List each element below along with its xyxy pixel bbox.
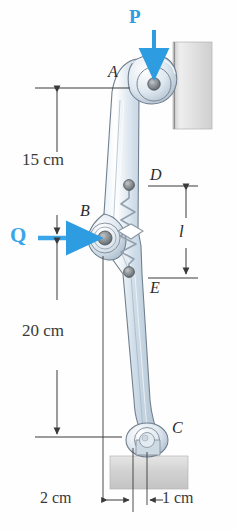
- wall-support: [173, 42, 212, 129]
- label-point-d: D: [150, 166, 162, 184]
- pin-e: [124, 267, 135, 278]
- force-q-label: Q: [10, 223, 26, 248]
- label-point-a: A: [108, 63, 118, 81]
- label-point-c: C: [172, 419, 183, 437]
- dimension-1cm-text: 1 cm: [162, 489, 194, 507]
- pin-a: [148, 78, 160, 90]
- dimension-l: [148, 186, 198, 278]
- label-spring-length: l: [179, 222, 184, 242]
- pin-b: [98, 231, 112, 245]
- force-p-label: P: [129, 6, 141, 28]
- dimension-15cm-text: 15 cm: [22, 150, 64, 170]
- label-point-e: E: [150, 279, 160, 297]
- base-support: [110, 456, 188, 489]
- pin-d: [124, 180, 135, 191]
- dimension-2cm-text: 2 cm: [40, 489, 72, 507]
- dimension-20cm-text: 20 cm: [22, 321, 64, 341]
- mechanism-diagram: [0, 0, 236, 530]
- mechanism-link: [88, 55, 177, 457]
- figure-canvas: P Q A B C D E l 15 cm 20 cm 2 cm 1 cm: [0, 0, 236, 530]
- label-point-b: B: [80, 202, 90, 220]
